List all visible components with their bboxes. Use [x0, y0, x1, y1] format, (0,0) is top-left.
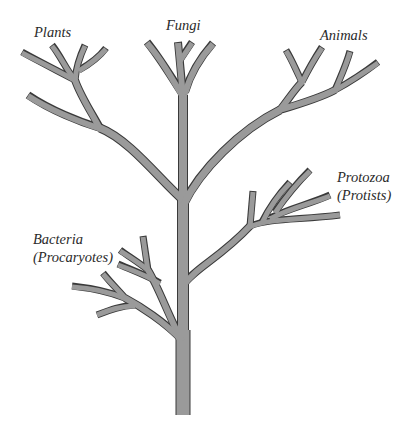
tree-drawing [0, 0, 412, 424]
label-fungi: Fungi [166, 16, 201, 34]
label-bacteria: Bacteria [33, 230, 83, 248]
label-procaryotes: (Procaryotes) [33, 248, 113, 266]
label-animals: Animals [320, 26, 368, 44]
label-protozoa: Protozoa [337, 168, 390, 186]
tree-of-life-diagram: Plants Fungi Animals Protozoa (Protists)… [0, 0, 412, 424]
label-plants: Plants [34, 23, 71, 41]
label-protists: (Protists) [337, 186, 391, 204]
